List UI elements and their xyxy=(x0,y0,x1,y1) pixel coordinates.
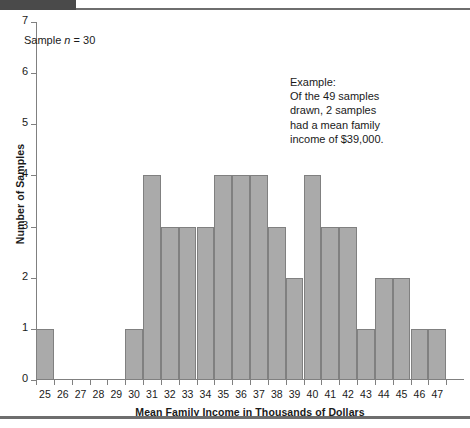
x-tick-mark xyxy=(143,380,144,385)
y-tick-label: 1 xyxy=(10,321,28,333)
x-tick-mark xyxy=(179,380,180,385)
x-tick-mark xyxy=(411,380,412,385)
x-tick-mark xyxy=(321,380,322,385)
y-tick-label: 2 xyxy=(10,270,28,282)
histogram-bar xyxy=(232,175,250,380)
histogram-bar xyxy=(393,278,411,380)
sample-note-suffix: = 30 xyxy=(70,34,95,46)
histogram-figure: Number of Samples 01234567 2526272829303… xyxy=(0,10,470,416)
histogram-bar xyxy=(339,227,357,380)
sample-note-prefix: Sample xyxy=(24,34,64,46)
y-tick-mark xyxy=(31,124,36,125)
histogram-bar xyxy=(411,329,429,380)
x-tick-mark xyxy=(375,380,376,385)
histogram-bar xyxy=(179,227,197,380)
histogram-bar xyxy=(268,227,286,380)
x-tick-mark xyxy=(54,380,55,385)
y-tick-label: 6 xyxy=(10,65,28,77)
x-tick-mark xyxy=(72,380,73,385)
histogram-bar xyxy=(197,227,215,380)
histogram-bar xyxy=(125,329,143,380)
x-tick-mark xyxy=(286,380,287,385)
histogram-bar xyxy=(357,329,375,380)
y-tick-label: 0 xyxy=(10,372,28,384)
x-tick-mark xyxy=(36,380,37,385)
x-tick-mark xyxy=(393,380,394,385)
x-tick-mark xyxy=(428,380,429,385)
y-tick-label: 3 xyxy=(10,219,28,231)
histogram-bar xyxy=(428,329,446,380)
y-tick-mark xyxy=(31,175,36,176)
y-axis-line xyxy=(36,22,37,380)
x-tick-mark xyxy=(268,380,269,385)
x-tick-mark xyxy=(339,380,340,385)
y-tick-label: 4 xyxy=(10,167,28,179)
header-accent-bar xyxy=(0,0,76,10)
example-callout: Example: Of the 49 samples drawn, 2 samp… xyxy=(290,75,384,146)
x-tick-mark xyxy=(161,380,162,385)
histogram-bar xyxy=(143,175,161,380)
x-tick-mark xyxy=(250,380,251,385)
x-tick-mark xyxy=(107,380,108,385)
y-tick-mark xyxy=(31,22,36,23)
x-tick-mark xyxy=(214,380,215,385)
x-tick-mark xyxy=(197,380,198,385)
y-axis-title: Number of Samples xyxy=(14,124,26,264)
histogram-bar xyxy=(161,227,179,380)
histogram-bar xyxy=(36,329,54,380)
histogram-bar xyxy=(250,175,268,380)
plot-area: 01234567 2526272829303132333435363738394… xyxy=(36,22,464,380)
bottom-divider-rule xyxy=(0,416,470,419)
y-tick-mark xyxy=(31,227,36,228)
sample-size-note: Sample n = 30 xyxy=(24,34,95,46)
x-tick-mark xyxy=(232,380,233,385)
histogram-bar xyxy=(286,278,304,380)
histogram-bar xyxy=(375,278,393,380)
x-tick-mark xyxy=(446,380,447,385)
x-tick-label: 47 xyxy=(425,388,449,400)
histogram-bar xyxy=(304,175,322,380)
y-tick-mark xyxy=(31,278,36,279)
histogram-bar xyxy=(214,175,232,380)
x-tick-mark xyxy=(125,380,126,385)
histogram-bar xyxy=(321,227,339,380)
x-tick-mark xyxy=(304,380,305,385)
y-tick-label: 7 xyxy=(10,14,28,26)
y-tick-mark xyxy=(31,73,36,74)
y-tick-label: 5 xyxy=(10,116,28,128)
x-tick-mark xyxy=(90,380,91,385)
x-tick-mark xyxy=(357,380,358,385)
